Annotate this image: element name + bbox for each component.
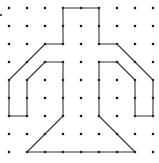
grid-dot [44,7,47,10]
grid-dot [44,115,47,118]
grid-dot [152,133,155,136]
grid-dot [152,43,155,46]
grid-dot [26,43,29,46]
grid-dot [8,25,11,28]
stray-dot [0,14,2,16]
grid-dot [44,79,47,82]
dot-grid-diagram [0,0,159,163]
grid-dot [134,25,137,28]
grid-dot [8,61,11,64]
grid-dots [8,7,155,154]
grid-dot [80,61,83,64]
grid-dot [8,133,11,136]
grid-dot [80,43,83,46]
grid-dot [152,151,155,154]
grid-dot [98,133,101,136]
grid-dot [116,79,119,82]
grid-dot [134,43,137,46]
grid-dot [152,7,155,10]
grid-dot [80,79,83,82]
grid-dot [134,133,137,136]
grid-dot [80,25,83,28]
grid-dot [44,97,47,100]
grid-dot [116,97,119,100]
grid-dot [26,133,29,136]
grid-dot [26,7,29,10]
grid-dot [116,7,119,10]
grid-dot [134,7,137,10]
grid-dot [8,151,11,154]
grid-dot [80,97,83,100]
grid-dot [116,115,119,118]
grid-dot [80,133,83,136]
grid-dot [152,61,155,64]
grid-dot [152,25,155,28]
grid-dot [116,25,119,28]
grid-dot [80,115,83,118]
grid-dot [44,25,47,28]
grid-dot [26,25,29,28]
grid-dot [62,133,65,136]
grid-dot [8,7,11,10]
grid-dot [8,43,11,46]
